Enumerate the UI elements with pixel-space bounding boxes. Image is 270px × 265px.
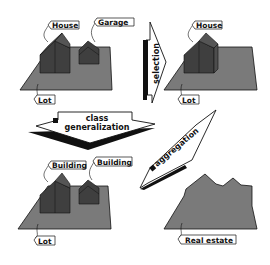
tag-house-label: House <box>196 21 222 30</box>
selection-arrow: selection <box>143 22 166 103</box>
tag-house: House <box>48 21 79 30</box>
panel-bottom-right: Real estate <box>164 174 257 245</box>
generalization-diagram: House Garage Lot selection House <box>0 0 270 265</box>
panel-top-left: House Garage Lot <box>20 18 134 105</box>
tag-house: House <box>192 21 222 30</box>
house-icon <box>40 33 70 73</box>
tag-building-2: Building <box>93 157 132 167</box>
tag-lot: Lot <box>34 236 55 246</box>
tag-lot: Lot <box>34 95 55 105</box>
tag-real-estate-label: Real estate <box>185 236 233 245</box>
tag-real-estate: Real estate <box>178 235 236 245</box>
selection-label: selection <box>152 43 161 84</box>
panel-bottom-left: Building Building Lot <box>18 157 132 246</box>
class-generalization-label-line1: class <box>86 114 109 123</box>
tag-house-label: House <box>52 21 78 30</box>
real-estate-shape <box>164 174 257 229</box>
tag-building-1-label: Building <box>52 161 87 170</box>
tag-garage: Garage <box>94 18 134 27</box>
tag-lot-label: Lot <box>38 237 52 246</box>
tag-garage-label: Garage <box>98 18 128 27</box>
tag-lot-label: Lot <box>182 96 196 105</box>
panel-top-right: House Lot <box>164 21 257 105</box>
class-generalization-arrow: class generalization <box>28 112 155 150</box>
tag-lot-label: Lot <box>38 96 52 105</box>
class-generalization-label-line2: generalization <box>65 123 130 132</box>
tag-building-2-label: Building <box>97 158 132 167</box>
garage-icon <box>79 41 99 64</box>
building-icon <box>40 173 70 213</box>
tag-lot: Lot <box>178 95 199 105</box>
tag-building-1: Building <box>48 161 87 170</box>
house-icon <box>184 33 218 73</box>
building-icon <box>79 180 99 204</box>
